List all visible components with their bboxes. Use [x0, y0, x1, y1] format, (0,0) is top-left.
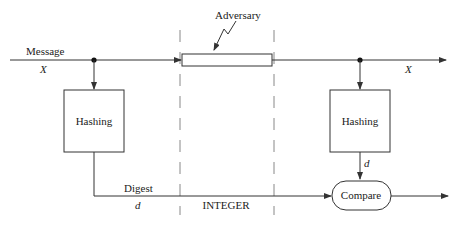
hashing-left-label: Hashing: [76, 116, 113, 127]
channel-label: INTEGER: [202, 200, 249, 211]
message-var-label: X: [40, 64, 47, 75]
hashing-right-label: Hashing: [342, 116, 379, 127]
hash-integrity-diagram: Message X Adversary X Hashing Hashing Di…: [0, 0, 457, 225]
output-var-label: X: [405, 64, 412, 75]
message-label: Message: [26, 46, 65, 57]
compare-label: Compare: [341, 190, 381, 201]
digest-label: Digest: [124, 183, 153, 194]
right-digest-var-label: d: [364, 158, 370, 169]
channel-box: [182, 54, 272, 66]
adversary-bolt-icon: [214, 21, 236, 50]
adversary-label: Adversary: [215, 10, 261, 21]
diagram-lines: [0, 0, 457, 225]
digest-var-label: d: [135, 200, 141, 211]
